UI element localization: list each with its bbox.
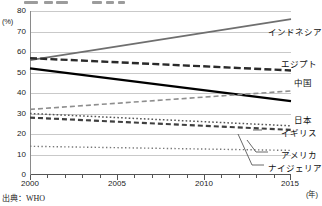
series-line-china [30,91,291,109]
series-label-egypt: エジプト [281,57,317,69]
x-tickmark-2012 [239,175,240,178]
x-axis-unit: (年) [306,188,318,199]
series-label-nigeria: ナイジェリア [268,161,322,173]
series-line-egypt [30,58,291,70]
x-tick-2010: 2010 [184,179,224,188]
x-tickmark-2006 [134,175,135,178]
x-tickmark-2011 [221,175,222,178]
series-label-uk: イギリス [281,126,317,138]
y-tick-30: 30 [0,110,26,118]
x-tickmark-2009 [187,175,188,178]
x-tickmark-2007 [152,175,153,178]
cropped-title-strip [0,0,322,7]
x-tick-2015: 2015 [270,179,310,188]
line-chart: 80 (%) 70 60 50 40 30 20 10 0 [0,0,322,206]
y-tick-60: 60 [0,48,26,56]
y-tick-80: 80 [0,7,26,15]
source-note: 出典：WHO [2,192,45,203]
series-lines [30,11,291,175]
series-label-china: 中国 [294,76,312,88]
y-tick-20: 20 [0,130,26,138]
y-tick-0: 0 [0,171,26,179]
series-label-japan: 日本 [294,113,312,125]
series-label-indonesia: インドネシア [268,25,322,37]
x-tick-2005: 2005 [97,179,137,188]
y-tick-50: 50 [0,69,26,77]
y-tick-10: 10 [0,151,26,159]
x-tickmark-2004 [100,175,101,178]
series-line-japan [30,68,291,101]
x-tick-2000: 2000 [10,179,50,188]
y-tick-40: 40 [0,89,26,97]
series-label-usa: アメリカ [281,148,317,160]
series-line-nigeria [30,146,291,150]
y-tick-70: 70 [0,28,26,36]
plot-area [30,11,291,175]
y-axis-unit: (%) [2,17,13,26]
x-tickmark-2003 [82,175,83,178]
x-tickmark-2008 [169,175,170,178]
x-tickmark-2013 [256,175,257,178]
x-tickmark-2014 [274,175,275,178]
x-tickmark-2001 [47,175,48,178]
series-line-indonesia [30,19,291,60]
x-tickmark-2002 [65,175,66,178]
